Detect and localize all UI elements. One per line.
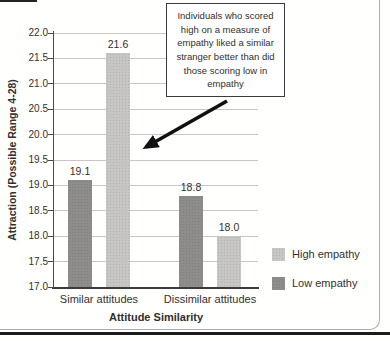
y-tick (48, 109, 54, 110)
y-tick (48, 58, 54, 59)
bar (68, 180, 92, 287)
bar-value-label: 18.8 (169, 181, 213, 193)
bar-value-label: 18.0 (207, 221, 251, 233)
gridline (54, 160, 258, 161)
y-tick (48, 134, 54, 135)
y-tick (48, 236, 54, 237)
legend-label: High empathy (285, 248, 360, 260)
y-tick (48, 160, 54, 161)
annotation-line: high on a measure of (167, 23, 284, 37)
y-tick-label: 20.0 (17, 129, 48, 141)
bar (217, 236, 241, 287)
y-tick (48, 33, 54, 34)
annotation-box: Individuals who scoredhigh on a measure … (166, 3, 285, 97)
bar (106, 53, 130, 287)
annotation-line: empathy (167, 77, 284, 91)
legend-label: Low empathy (285, 277, 357, 289)
annotation-line: stranger better than did (167, 50, 284, 64)
y-tick-label: 17.5 (17, 256, 48, 268)
y-tick-label: 17.0 (17, 281, 48, 293)
y-tick-label: 21.5 (17, 52, 48, 64)
y-tick (48, 210, 54, 211)
y-tick-label: 22.0 (17, 27, 48, 39)
bar-value-label: 19.1 (58, 165, 102, 177)
x-axis-title: Attitude Similarity (56, 311, 256, 323)
annotation-line: those scoring low in (167, 64, 284, 78)
legend-item: High empathy (272, 246, 360, 262)
legend: High empathyLow empathy (272, 246, 360, 304)
bottom-rule (0, 332, 390, 335)
x-axis-line (52, 287, 259, 289)
y-tick-label: 21.0 (17, 78, 48, 90)
y-tick-label: 18.5 (17, 205, 48, 217)
annotation-line: Individuals who scored (167, 9, 284, 23)
legend-item: Low empathy (272, 275, 360, 291)
legend-swatch (272, 248, 285, 261)
figure: Attraction (Possible Range 4-28) 22.021.… (0, 0, 390, 341)
gridline (54, 109, 258, 110)
y-tick-label: 20.5 (17, 103, 48, 115)
y-tick-label: 18.0 (17, 230, 48, 242)
y-tick (48, 185, 54, 186)
bar (179, 196, 203, 287)
y-tick (48, 261, 54, 262)
bar-value-label: 21.6 (96, 38, 140, 50)
y-tick (48, 83, 54, 84)
annotation-line: empathy liked a similar (167, 36, 284, 50)
category-label: Dissimilar attitudes (145, 293, 275, 305)
legend-swatch (272, 277, 285, 290)
y-tick-label: 19.0 (17, 179, 48, 191)
gridline (54, 134, 258, 135)
y-tick (48, 287, 54, 288)
y-tick-label: 19.5 (17, 154, 48, 166)
